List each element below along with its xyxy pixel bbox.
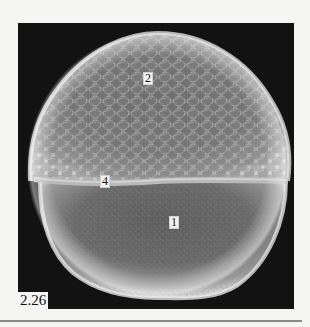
callout-label-4: 4 xyxy=(100,175,110,188)
callout-label-1: 1 xyxy=(169,216,179,229)
micrograph-panel: 2 4 1 2.26 xyxy=(18,23,294,309)
figure-number: 2.26 xyxy=(18,292,48,309)
callout-label-2: 2 xyxy=(143,72,153,85)
bottom-divider xyxy=(0,320,302,322)
embryo-micrograph xyxy=(18,23,294,309)
sphere-rim-highlight xyxy=(27,32,289,298)
